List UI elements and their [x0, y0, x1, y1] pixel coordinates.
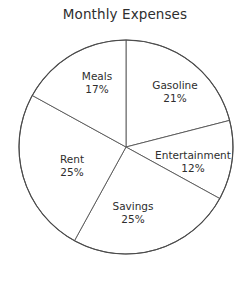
slice-label-meals: Meals17% [82, 70, 112, 96]
pie-graphic [0, 0, 250, 293]
slice-label-value: 25% [112, 213, 153, 226]
slice-label-name: Meals [82, 70, 112, 83]
slice-label-name: Entertainment [155, 149, 231, 162]
slice-label-gasoline: Gasoline21% [152, 79, 197, 105]
slice-label-name: Rent [60, 153, 84, 166]
slice-label-rent: Rent25% [60, 153, 84, 179]
pie-chart: Monthly Expenses Gasoline21%Entertainmen… [0, 0, 250, 293]
slice-label-name: Gasoline [152, 79, 197, 92]
slice-label-savings: Savings25% [112, 200, 153, 226]
slice-label-value: 12% [155, 162, 231, 175]
slice-label-value: 25% [60, 166, 84, 179]
slice-label-name: Savings [112, 200, 153, 213]
slice-label-entertainment: Entertainment12% [155, 149, 231, 175]
slice-label-value: 17% [82, 83, 112, 96]
slice-label-value: 21% [152, 92, 197, 105]
